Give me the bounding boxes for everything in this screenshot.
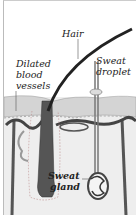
skin-diagram: Hair Sweat droplet Dilated blood vessels… [3, 0, 136, 215]
dilated-vessels-label-line2: blood [16, 70, 43, 80]
sweat-gland-label-line2: gland [50, 182, 80, 192]
hair-label: Hair [62, 29, 84, 39]
dilated-vessels-label-line3: vessels [16, 81, 50, 91]
sweat-droplet-label-line2: droplet [96, 67, 131, 77]
dilated-vessels-label-line1: Dilated [16, 59, 51, 69]
sweat-droplet-label-line1: Sweat [96, 56, 126, 66]
sweat-gland-label-line1: Sweat [48, 171, 80, 181]
